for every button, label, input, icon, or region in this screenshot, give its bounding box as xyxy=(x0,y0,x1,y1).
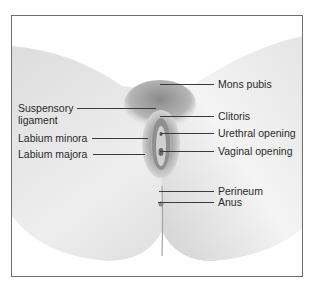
leader-urethral-opening xyxy=(161,133,214,134)
leader-suspensory-ligament xyxy=(77,108,156,109)
leader-perineum xyxy=(159,191,214,192)
leader-vaginal-opening xyxy=(160,151,214,152)
leader-mons-pubis xyxy=(160,84,214,85)
leader-labium-majora xyxy=(93,154,145,155)
label-suspensory-ligament-line1: Suspensory xyxy=(18,102,73,114)
leader-clitoris xyxy=(160,116,214,117)
label-mons-pubis: Mons pubis xyxy=(218,78,272,90)
label-labium-majora: Labium majora xyxy=(18,148,87,160)
label-suspensory-ligament-line2: ligament xyxy=(18,114,58,126)
label-anus: Anus xyxy=(218,196,242,208)
label-clitoris: Clitoris xyxy=(218,110,250,122)
label-labium-minora: Labium minora xyxy=(18,132,87,144)
label-urethral-opening: Urethral opening xyxy=(218,127,296,139)
label-vaginal-opening: Vaginal opening xyxy=(218,145,293,157)
leader-labium-minora xyxy=(92,138,148,139)
leader-anus xyxy=(158,202,214,203)
